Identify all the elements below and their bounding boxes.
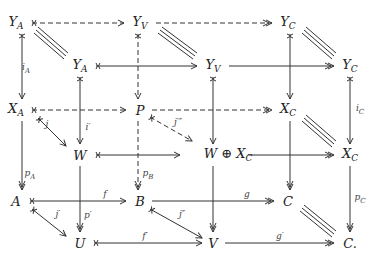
label-jprime: j′ (56, 210, 61, 219)
node-XC_back: XC (280, 102, 296, 119)
node-YA_front: YA (72, 58, 87, 75)
equality-C (300, 205, 336, 237)
label-jdoubleprime: j″ (179, 210, 185, 219)
equality-YV (158, 27, 197, 59)
label-g: g (244, 190, 250, 199)
node-P: P (136, 104, 145, 117)
node-A: A (11, 195, 20, 208)
arrow-jtriple (150, 117, 192, 141)
node-YC_front: YC (342, 58, 357, 75)
label-pA: pA (25, 169, 36, 181)
node-U: U (75, 237, 86, 250)
node-WplusXC: W ⊕ XC (204, 147, 253, 164)
node-XA: XA (8, 102, 24, 119)
arrow-jprime (32, 209, 66, 236)
node-YA_back: YA (8, 15, 23, 32)
node-YV_back: YV (132, 15, 147, 32)
label-gprime: g′ (276, 232, 284, 241)
label-iA: iA (22, 63, 30, 75)
equality-YC (302, 27, 336, 59)
label-iprime: i′ (86, 123, 91, 132)
node-V: V (208, 237, 217, 250)
node-C_back: C (283, 195, 293, 208)
equality-YA (34, 27, 68, 59)
node-B: B (135, 195, 145, 208)
label-jtriple: j′″ (174, 118, 182, 127)
label-iC: iC (356, 104, 364, 116)
label-pC: pC (354, 193, 365, 205)
equality-XC (302, 115, 336, 147)
diagram-arrows (0, 0, 375, 258)
node-C_front: C. (343, 237, 357, 250)
label-j: j (46, 120, 49, 129)
label-pB: pB (143, 169, 154, 181)
label-fprime: f′ (142, 232, 147, 241)
node-YC_back: YC (280, 15, 295, 32)
label-pprime: p′ (84, 211, 92, 220)
node-W: W (73, 149, 86, 162)
node-YV_front: YV (205, 58, 220, 75)
arrow-j (38, 118, 66, 146)
node-XC_front: XC (342, 147, 358, 164)
label-f: f (103, 190, 106, 199)
arrow-jdoubleprime (150, 209, 202, 238)
